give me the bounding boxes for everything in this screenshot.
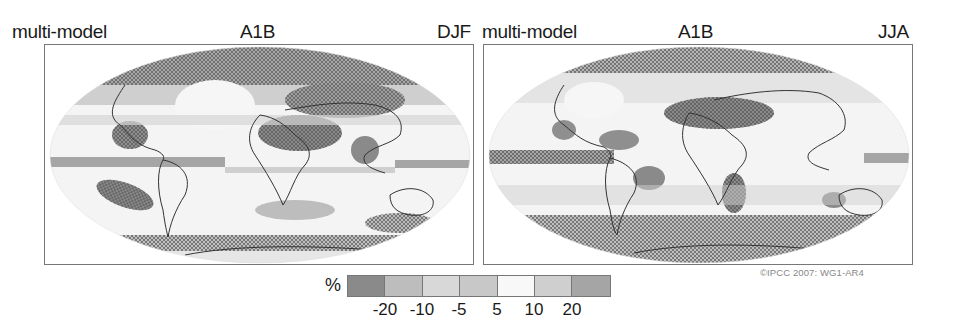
map-panel-djf (44, 44, 474, 265)
panel-left-model-label: multi-model (12, 22, 107, 42)
legend-bin-6 (535, 276, 572, 296)
panel-right-season-label: JJA (878, 22, 909, 42)
legend-bin-7 (572, 276, 609, 296)
legend-bin-5 (498, 276, 535, 296)
legend-bin-2 (385, 276, 422, 296)
legend-tick: -5 (451, 300, 466, 320)
legend-bin-4 (460, 276, 497, 296)
world-map-jja (484, 45, 913, 265)
panel-left-scenario-label: A1B (240, 22, 275, 42)
world-map-djf (45, 45, 474, 265)
panel-right-scenario-label: A1B (678, 22, 713, 42)
ipcc-credit: ©IPCC 2007: WG1-AR4 (760, 267, 864, 278)
panel-left-season-label: DJF (437, 22, 471, 42)
legend-bin-3 (423, 276, 460, 296)
legend-tick: -20 (373, 300, 398, 320)
legend-tick: 20 (563, 300, 582, 320)
panel-right-model-label: multi-model (482, 22, 577, 42)
legend-tick: 10 (525, 300, 544, 320)
color-legend (347, 275, 611, 297)
legend-bin-1 (348, 276, 385, 296)
map-panel-jja (483, 44, 913, 265)
legend-unit-label: % (325, 275, 341, 296)
legend-tick: -10 (410, 300, 435, 320)
legend-tick: 5 (492, 300, 501, 320)
